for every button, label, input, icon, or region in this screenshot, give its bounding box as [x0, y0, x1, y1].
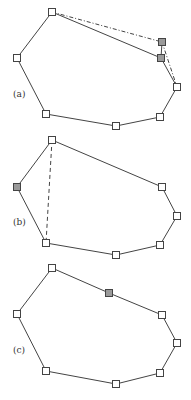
vertex-node — [113, 252, 120, 259]
vertex-node — [157, 114, 164, 121]
vertex-node — [113, 381, 120, 388]
polygon-outline-a — [17, 12, 177, 126]
vertex-node — [159, 312, 166, 319]
polygon-outline-b — [17, 140, 177, 255]
vertex-node — [157, 242, 164, 249]
panel-a: (a) — [13, 9, 181, 130]
dashed-edge — [52, 12, 162, 42]
shaded-vertex-node — [158, 55, 165, 62]
vertex-node — [43, 111, 50, 118]
vertex-node — [49, 265, 56, 272]
panel-label-c: (c) — [13, 345, 25, 355]
vertex-node — [49, 137, 56, 144]
vertex-node — [43, 240, 50, 247]
shaded-vertex-node — [159, 39, 166, 46]
vertex-node — [14, 55, 21, 62]
vertex-node — [157, 370, 164, 377]
panel-label-a: (a) — [13, 89, 25, 99]
shaded-vertex-node — [106, 290, 113, 297]
dashed-edge — [46, 140, 52, 243]
vertex-node — [174, 84, 181, 91]
vertex-node — [43, 368, 50, 375]
vertex-node — [113, 123, 120, 130]
shaded-vertex-node — [14, 184, 21, 191]
vertex-node — [14, 311, 21, 318]
vertex-node — [174, 213, 181, 220]
vertex-node — [174, 340, 181, 347]
panel-c: (c) — [13, 265, 181, 388]
polygon-outline-c — [17, 268, 177, 384]
vertex-node — [159, 184, 166, 191]
vertex-node — [49, 9, 56, 16]
panel-b: (b) — [13, 137, 181, 259]
panel-label-b: (b) — [13, 217, 26, 227]
polygon-diagram: (a) (b) (c) — [0, 0, 191, 400]
